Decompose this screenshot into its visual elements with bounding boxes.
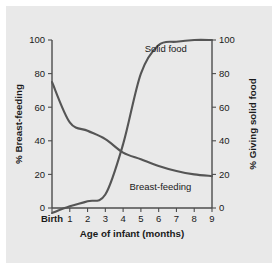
x-axis-tick-label: 5 <box>138 213 143 224</box>
x-axis-tick-label: 6 <box>156 213 161 224</box>
series-line-breast-feeding <box>52 82 212 176</box>
axes-group: 020406080100020406080100Birth123456789 <box>29 34 235 224</box>
x-axis-tick-label: 7 <box>174 213 179 224</box>
series-annotation-breast-feeding: Breast-feeding <box>130 181 192 192</box>
x-axis-tick-label: 4 <box>120 213 125 224</box>
left-axis-tick-label: 100 <box>29 34 45 45</box>
right-axis-tick-label: 60 <box>219 102 230 113</box>
chart-figure: 020406080100020406080100Birth123456789 B… <box>0 0 278 269</box>
x-axis-tick-label: 2 <box>85 213 90 224</box>
x-axis-tick-label: Birth <box>41 213 63 224</box>
right-axis-tick-label: 20 <box>219 169 230 180</box>
x-axis-tick-label: 9 <box>209 213 214 224</box>
left-axis-tick-label: 40 <box>34 135 45 146</box>
right-axis-tick-label: 40 <box>219 135 230 146</box>
right-axis-tick-label: 100 <box>219 34 235 45</box>
x-axis-tick-label: 1 <box>67 213 72 224</box>
x-axis-tick-label: 3 <box>103 213 108 224</box>
left-axis-tick-label: 20 <box>34 169 45 180</box>
left-axis-title: % Breast-feeding <box>13 84 24 164</box>
chart-svg: 020406080100020406080100Birth123456789 B… <box>0 0 278 269</box>
series-annotation-solid-food: Solid food <box>145 43 187 54</box>
right-axis-tick-label: 80 <box>219 68 230 79</box>
right-axis-title: % Giving solid food <box>247 78 258 169</box>
right-axis-tick-label: 0 <box>219 202 224 213</box>
x-axis-title: Age of infant (months) <box>80 228 184 239</box>
left-axis-tick-label: 0 <box>40 202 45 213</box>
x-axis-tick-label: 8 <box>192 213 197 224</box>
left-axis-tick-label: 60 <box>34 102 45 113</box>
left-axis-tick-label: 80 <box>34 68 45 79</box>
